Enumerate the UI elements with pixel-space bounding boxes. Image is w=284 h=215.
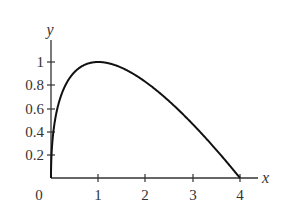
x-tick-label: 2: [141, 187, 149, 203]
y-axis: 0.2 0.4 0.6 0.8 1 y: [25, 21, 55, 178]
y-tick-label: 0.6: [25, 101, 44, 117]
y-tick-label: 0.2: [25, 147, 44, 163]
y-axis-label: y: [44, 21, 54, 39]
function-curve: [51, 62, 240, 178]
y-tick-label: 0.4: [25, 124, 44, 140]
x-tick-label: 4: [236, 187, 244, 203]
x-tick-label: 1: [94, 187, 102, 203]
origin-label: 0: [35, 187, 43, 203]
x-axis: 0 1 2 3 4 x: [35, 169, 269, 203]
x-axis-label: x: [261, 169, 269, 186]
y-tick-label: 1: [37, 54, 45, 70]
x-tick-label: 3: [189, 187, 197, 203]
chart: 0 1 2 3 4 x 0.2 0.4 0.6 0.8 1 y: [0, 0, 284, 215]
y-tick-label: 0.8: [25, 77, 44, 93]
